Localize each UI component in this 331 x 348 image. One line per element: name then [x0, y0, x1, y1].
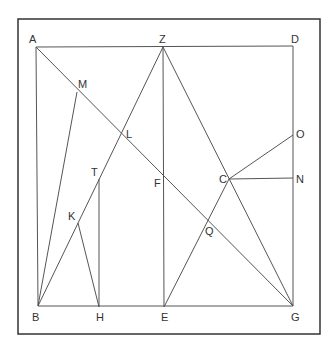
- segment-CO: [229, 135, 293, 179]
- geometry-diagram: AZDBHEGMLTKFCONQ: [0, 0, 331, 348]
- label-point-A: A: [29, 33, 37, 45]
- label-point-G: G: [291, 311, 300, 323]
- segment-ZE: [163, 47, 164, 307]
- label-point-L: L: [126, 128, 132, 140]
- segment-AG: [36, 47, 293, 306]
- label-point-B: B: [32, 311, 39, 323]
- outer-frame: [18, 19, 320, 334]
- segment-AB: [36, 47, 38, 306]
- label-point-M: M: [78, 78, 87, 90]
- segment-EC: [164, 179, 229, 307]
- label-point-C: C: [219, 173, 227, 185]
- label-point-K: K: [68, 210, 76, 222]
- segment-AD: [36, 46, 293, 47]
- label-point-D: D: [291, 33, 299, 45]
- segment-MB: [38, 92, 77, 306]
- segment-ZB: [38, 47, 163, 306]
- segment-ZG: [163, 47, 293, 306]
- label-point-F: F: [154, 177, 161, 189]
- label-point-N: N: [296, 173, 304, 185]
- segment-CN: [229, 178, 293, 179]
- label-point-Z: Z: [159, 33, 166, 45]
- label-point-Q: Q: [205, 225, 214, 237]
- label-point-E: E: [161, 311, 168, 323]
- line-segments: [36, 46, 293, 307]
- label-point-H: H: [96, 311, 104, 323]
- label-point-O: O: [296, 128, 305, 140]
- label-point-T: T: [91, 166, 98, 178]
- segment-KH: [78, 223, 99, 307]
